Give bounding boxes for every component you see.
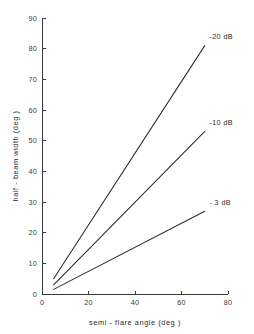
series-label-20db: -20 dB: [209, 32, 233, 41]
x-axis-ticks: 020406080: [40, 291, 232, 308]
x-tick-label: 20: [84, 298, 92, 307]
series-label-10db: -10 dB: [209, 118, 233, 127]
y-tick-label: 90: [29, 14, 37, 23]
x-tick-label: 0: [40, 298, 44, 307]
y-tick-label: 80: [29, 44, 37, 53]
y-tick-label: 50: [29, 136, 37, 145]
y-tick-label: 20: [29, 228, 37, 237]
series-line-10db: [54, 131, 205, 284]
y-tick-label: 10: [29, 259, 37, 268]
series-label-3db: - 3 dB: [209, 198, 231, 207]
chart-figure: 0102030405060708090 020406080 -20 dB-10 …: [0, 0, 254, 334]
chart-series-labels: -20 dB-10 dB- 3 dB: [209, 32, 233, 207]
line-chart-plot: 0102030405060708090 020406080 -20 dB-10 …: [0, 0, 254, 334]
x-tick-label: 60: [177, 298, 185, 307]
x-tick-label: 80: [224, 298, 232, 307]
y-axis-ticks: 0102030405060708090: [29, 14, 46, 299]
x-axis-title: semi - flare angle (deg ): [89, 318, 181, 327]
chart-axes: [42, 18, 228, 294]
series-line-20db: [54, 46, 205, 279]
series-line-3db: [54, 211, 205, 289]
y-tick-label: 0: [33, 290, 37, 299]
x-tick-label: 40: [131, 298, 139, 307]
y-tick-label: 40: [29, 167, 37, 176]
y-tick-label: 60: [29, 106, 37, 115]
chart-series-group: [54, 46, 205, 290]
y-tick-label: 30: [29, 198, 37, 207]
y-tick-label: 70: [29, 75, 37, 84]
y-axis-title: half - beam width (deg ): [11, 111, 20, 202]
